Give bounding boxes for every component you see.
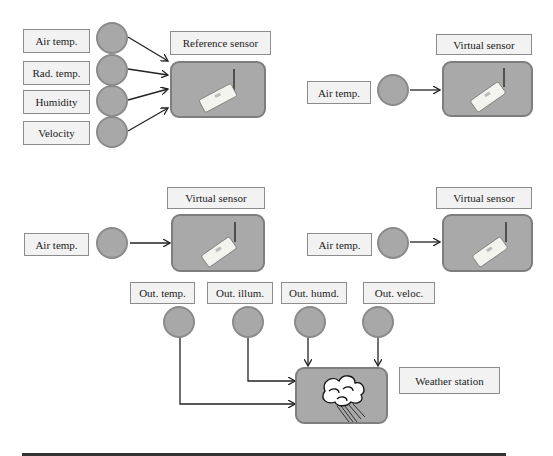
input-label-rad-temp: Rad. temp. (23, 61, 90, 85)
input-label-out-humd: Out. humd. (281, 282, 347, 304)
weather-station-label: Weather station (399, 367, 500, 394)
reference-sensor-label: Reference sensor (170, 31, 271, 55)
input-node (377, 227, 409, 259)
wireless-sensor-icon (172, 63, 264, 116)
input-label-out-illum: Out. illum. (207, 282, 273, 304)
wireless-sensor-icon (173, 216, 263, 270)
virtual-sensor-box (442, 214, 533, 272)
input-node (163, 306, 195, 338)
wireless-sensor-icon (444, 63, 531, 115)
virtual-sensor-label: Virtual sensor (436, 34, 532, 55)
input-label-air-temp: Air temp. (23, 29, 90, 53)
input-node (96, 54, 128, 86)
rain-cloud-icon (297, 369, 386, 422)
virtual-sensor-box (171, 214, 265, 272)
input-label-humidity: Humidity (23, 90, 90, 114)
input-node (232, 306, 264, 338)
input-label-air-temp: Air temp. (307, 81, 371, 104)
input-node (96, 227, 128, 259)
virtual-sensor-label: Virtual sensor (436, 187, 532, 209)
input-label-air-temp: Air temp. (24, 233, 89, 256)
wireless-sensor-icon (444, 216, 531, 270)
virtual-sensor-label: Virtual sensor (167, 187, 265, 209)
input-node (377, 74, 409, 106)
input-node (294, 306, 326, 338)
input-label-velocity: Velocity (23, 121, 90, 145)
input-node (96, 116, 128, 148)
input-node (96, 22, 128, 54)
input-label-out-veloc: Out. veloc. (363, 282, 435, 304)
input-label-air-temp: Air temp. (307, 233, 372, 256)
reference-sensor-box (170, 61, 266, 118)
input-node (362, 306, 394, 338)
weather-station-box (295, 367, 388, 424)
virtual-sensor-box (442, 61, 533, 117)
input-label-out-temp: Out. temp. (130, 282, 195, 304)
input-node (96, 85, 128, 117)
